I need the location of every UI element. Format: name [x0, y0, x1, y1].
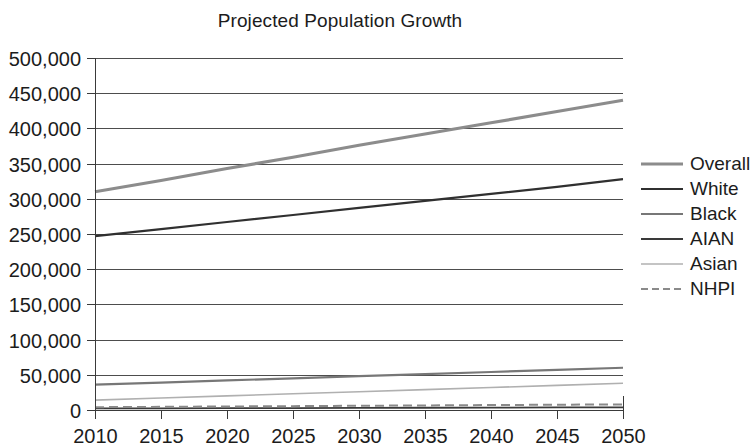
y-axis-tick-label: 500,000: [9, 48, 81, 70]
gridlines-group: [95, 59, 623, 376]
y-axis-tick-label: 0: [70, 400, 81, 422]
x-axis-tick-label: 2015: [139, 425, 184, 447]
y-axis-tick-labels: 050,000100,000150,000200,000250,000300,0…: [9, 48, 81, 422]
x-axis-tick-label: 2040: [469, 425, 514, 447]
legend-label-white: White: [690, 178, 739, 199]
y-axis-tick-label: 250,000: [9, 224, 81, 246]
chart-container: Projected Population Growth 050,000100,0…: [0, 0, 753, 448]
x-axis-tick-label: 2030: [337, 425, 382, 447]
legend-label-aian: AIAN: [690, 228, 734, 249]
legend-label-overall: Overall: [690, 153, 750, 174]
legend-label-nhpi: NHPI: [690, 278, 735, 299]
series-lines-group: [95, 100, 623, 408]
chart-plot: 050,000100,000150,000200,000250,000300,0…: [0, 0, 753, 448]
y-axis-tick-label: 350,000: [9, 154, 81, 176]
series-line-aian: [95, 407, 623, 408]
y-axis-tick-label: 400,000: [9, 118, 81, 140]
series-line-black: [95, 368, 623, 385]
legend-label-black: Black: [690, 203, 737, 224]
series-line-white: [95, 179, 623, 236]
y-axis-ticks: [87, 59, 95, 411]
series-line-asian: [95, 383, 623, 400]
y-axis-tick-label: 50,000: [20, 365, 81, 387]
y-axis-tick-label: 450,000: [9, 83, 81, 105]
legend: OverallWhiteBlackAIANAsianNHPI: [641, 153, 750, 299]
series-line-overall: [95, 100, 623, 192]
x-axis-ticks: [96, 410, 624, 419]
y-axis-tick-label: 150,000: [9, 294, 81, 316]
y-axis-tick-label: 100,000: [9, 330, 81, 352]
x-axis-tick-label: 2050: [601, 425, 646, 447]
x-axis-tick-label: 2020: [205, 425, 250, 447]
x-axis-tick-label: 2045: [535, 425, 580, 447]
legend-label-asian: Asian: [690, 253, 738, 274]
y-axis-tick-label: 200,000: [9, 259, 81, 281]
x-axis-tick-label: 2025: [271, 425, 316, 447]
y-axis-tick-label: 300,000: [9, 189, 81, 211]
x-axis-tick-labels: 201020152020202520302035204020452050: [73, 425, 646, 447]
x-axis-tick-label: 2010: [73, 425, 118, 447]
x-axis-tick-label: 2035: [403, 425, 448, 447]
